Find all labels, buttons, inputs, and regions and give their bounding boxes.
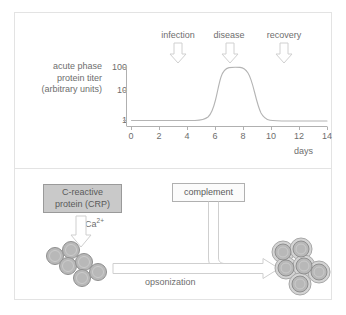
x-tick-label-12: 12 bbox=[290, 131, 308, 141]
y-axis-title: acute phase protein titer (arbitrary uni… bbox=[24, 61, 102, 96]
annotation-label-infection: infection bbox=[150, 30, 206, 41]
x-tick-label-8: 8 bbox=[234, 131, 252, 141]
calcium-label-text: Ca bbox=[85, 219, 97, 229]
opsonization-label: opsonization bbox=[145, 277, 196, 287]
figure-root: infection disease recovery acute phase p… bbox=[0, 0, 346, 315]
y-axis-title-line-2: protein titer bbox=[24, 73, 102, 85]
annotation-label-disease: disease bbox=[203, 30, 255, 41]
annotation-label-recovery: recovery bbox=[255, 30, 313, 41]
y-tick-label-100: 100 bbox=[101, 62, 127, 72]
crp-box-text: C-reactive protein (CRP) bbox=[55, 187, 110, 210]
x-tick-label-4: 4 bbox=[178, 131, 196, 141]
y-axis-title-line-1: acute phase bbox=[24, 61, 102, 73]
x-tick-label-14: 14 bbox=[318, 131, 336, 141]
y-tick-label-1: 1 bbox=[101, 115, 127, 125]
complement-box-label: complement bbox=[184, 187, 233, 199]
figure-outer-frame bbox=[14, 12, 332, 300]
x-tick-label-10: 10 bbox=[262, 131, 280, 141]
calcium-label-charge: 2+ bbox=[97, 217, 104, 224]
calcium-label: Ca2+ bbox=[85, 217, 104, 229]
crp-box: C-reactive protein (CRP) bbox=[43, 184, 122, 213]
crp-box-line-2: protein (CRP) bbox=[55, 199, 110, 209]
x-axis-title: days bbox=[294, 146, 313, 156]
complement-box: complement bbox=[172, 183, 245, 202]
x-tick-label-0: 0 bbox=[122, 131, 140, 141]
crp-box-line-1: C-reactive bbox=[62, 187, 103, 197]
y-tick-label-10: 10 bbox=[101, 85, 127, 95]
x-tick-label-6: 6 bbox=[206, 131, 224, 141]
y-axis-title-line-3: (arbitrary units) bbox=[24, 84, 102, 96]
x-tick-label-2: 2 bbox=[150, 131, 168, 141]
panel-divider bbox=[14, 168, 332, 169]
